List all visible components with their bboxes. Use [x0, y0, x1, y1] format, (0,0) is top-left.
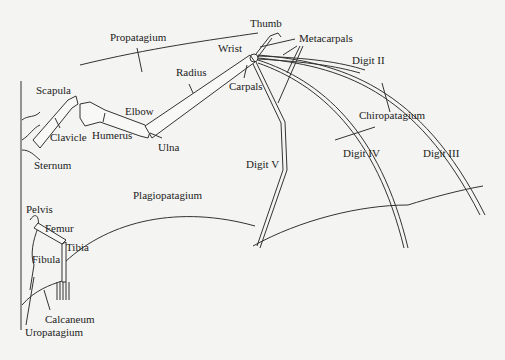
plagiopatagium-edge: [65, 217, 255, 262]
label-propatagium: Propatagium: [110, 31, 166, 43]
label-tibia: Tibia: [66, 241, 89, 253]
label-wrist: Wrist: [218, 42, 242, 54]
label-digit-iv: Digit IV: [343, 147, 380, 159]
digit-iv-outer: [258, 60, 408, 248]
label-ulna: Ulna: [158, 141, 179, 153]
label-sternum: Sternum: [34, 159, 71, 171]
label-uropatagium: Uropatagium: [25, 326, 83, 338]
label-clavicle: Clavicle: [50, 131, 87, 143]
wing-drawing: [0, 0, 505, 360]
metacarpals-pointer-2: [283, 46, 297, 55]
label-pelvis: Pelvis: [26, 203, 53, 215]
label-elbow: Elbow: [125, 105, 154, 117]
label-humerus: Humerus: [92, 129, 132, 141]
calcaneum-bone: [22, 281, 62, 305]
label-digit-ii: Digit II: [352, 54, 385, 66]
radius-tick: [189, 84, 193, 93]
digit-iii-inner: [258, 58, 480, 215]
chiropatagium-pointer-1: [382, 83, 390, 112]
label-radius: Radius: [176, 66, 207, 78]
calcaneum-pointer: [44, 290, 50, 310]
label-thumb: Thumb: [250, 17, 282, 29]
wing-trailing-edge-outer: [253, 186, 483, 246]
metacarpals-pointer-1: [260, 39, 295, 47]
label-calcaneum: Calcaneum: [45, 313, 94, 325]
metacarpals-pointer-4: [278, 46, 303, 103]
label-femur: Femur: [45, 222, 74, 234]
digit-iv-inner: [258, 63, 404, 248]
label-metacarpals: Metacarpals: [299, 32, 353, 44]
label-fibula: Fibula: [32, 253, 60, 265]
label-digit-v: Digit V: [246, 158, 279, 170]
uropatagium-pointer: [26, 277, 34, 325]
label-scapula: Scapula: [36, 84, 71, 96]
label-digit-iii: Digit III: [423, 147, 459, 159]
label-chiropatagium: Chiropatagium: [359, 109, 425, 121]
foot-claws: [57, 282, 69, 300]
bat-wing-diagram: Thumb Metacarpals Propatagium Wrist Digi…: [0, 0, 505, 360]
label-carpals: Carpals: [229, 80, 263, 92]
label-plagiopatagium: Plagiopatagium: [133, 189, 202, 201]
